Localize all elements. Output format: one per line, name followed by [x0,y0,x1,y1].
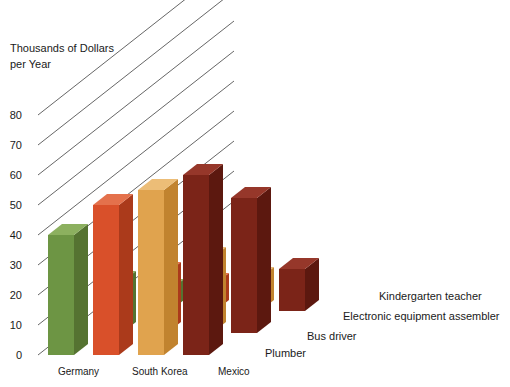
gridline [38,0,234,145]
bar [93,194,133,355]
bar [138,179,178,355]
series-label: Electronic equipment assembler [343,310,500,322]
category-label: Mexico [218,366,250,377]
category-label: South Korea [132,366,188,377]
bar [48,224,88,355]
bar [231,187,271,333]
y-axis-label-line2: per Year [10,58,51,70]
bar-front-face [138,190,164,355]
bar-front-face [231,198,257,333]
y-tick-label: 20 [10,289,22,301]
y-tick-label: 70 [10,139,22,151]
y-tick-label: 0 [16,349,22,361]
y-tick-label: 80 [10,109,22,121]
y-tick-label: 10 [10,319,22,331]
y-tick-label: 30 [10,259,22,271]
y-tick-label: 60 [10,169,22,181]
bar-side-face [164,179,178,355]
bar-side-face [209,164,223,355]
series-label: Kindergarten teacher [379,290,482,302]
bar [279,258,319,311]
bar-side-face [257,187,271,333]
category-label: Germany [58,366,99,377]
y-tick-label: 50 [10,199,22,211]
y-tick-label: 40 [10,229,22,241]
chart-canvas: 01020304050607080 Thousands of Dollars p… [0,0,510,387]
bar-front-face [93,205,119,355]
bar-front-face [279,269,305,311]
bar-side-face [74,224,88,355]
category-labels: GermanySouth KoreaMexico [58,366,250,377]
bars [48,164,319,355]
bar-front-face [183,175,209,355]
series-label: Plumber [265,347,306,359]
series-label: Bus driver [307,330,357,342]
y-axis-label-line1: Thousands of Dollars [10,42,114,54]
bar [183,164,223,355]
bar-front-face [48,235,74,355]
y-axis-ticks: 01020304050607080 [10,109,22,361]
bar-chart-3d: 01020304050607080 Thousands of Dollars p… [0,0,510,387]
bar-side-face [119,194,133,355]
